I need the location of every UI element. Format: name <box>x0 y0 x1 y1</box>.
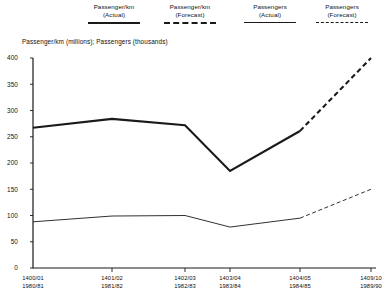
series-line-thin-solid <box>33 216 300 228</box>
series-line-thin-dashed <box>300 189 371 218</box>
axes <box>33 58 376 268</box>
x-tick-label-line1: 1401/02 <box>89 274 135 282</box>
y-tick-label: 250 <box>2 133 18 140</box>
x-tick-label-line1: 1409/10 <box>348 274 384 282</box>
x-tick-label-line2: 1981/82 <box>89 282 135 290</box>
axis-lines <box>33 58 376 268</box>
y-tick-label: 0 <box>2 264 18 271</box>
y-tick-label: 100 <box>2 212 18 219</box>
x-tick-label: 1409/101989/90 <box>348 274 384 290</box>
series-line-thick-solid <box>33 119 300 171</box>
x-tick-label: 1400/011980/81 <box>10 274 56 290</box>
y-tick-label: 200 <box>2 159 18 166</box>
x-tick-label-line1: 1403/04 <box>207 274 253 282</box>
x-tick-label-line2: 1980/81 <box>10 282 56 290</box>
x-tick-label: 1403/041983/84 <box>207 274 253 290</box>
series-line-thick-dashed <box>300 58 371 131</box>
x-tick-label-line2: 1989/90 <box>348 282 384 290</box>
chart-page: Passenger/km (Actual) Passenger/km (Fore… <box>0 0 384 305</box>
y-tick-label: 50 <box>2 238 18 245</box>
x-tick-label: 1401/021981/82 <box>89 274 135 290</box>
chart-series-layer <box>33 58 371 227</box>
y-tick-label: 150 <box>2 186 18 193</box>
y-tick-label: 300 <box>2 107 18 114</box>
y-tick-label: 400 <box>2 54 18 61</box>
x-tick-label-line1: 1404/05 <box>277 274 323 282</box>
x-tick-label-line2: 1982/83 <box>162 282 208 290</box>
chart-plot-area: 050100150200250300350400 1400/011980/811… <box>0 0 384 305</box>
x-tick-label: 1404/051984/85 <box>277 274 323 290</box>
y-tick-label: 350 <box>2 81 18 88</box>
x-tick-label-line2: 1984/85 <box>277 282 323 290</box>
x-tick-label-line1: 1402/03 <box>162 274 208 282</box>
chart-svg <box>0 0 384 305</box>
x-tick-label: 1402/031982/83 <box>162 274 208 290</box>
x-tick-label-line1: 1400/01 <box>10 274 56 282</box>
x-tick-label-line2: 1983/84 <box>207 282 253 290</box>
